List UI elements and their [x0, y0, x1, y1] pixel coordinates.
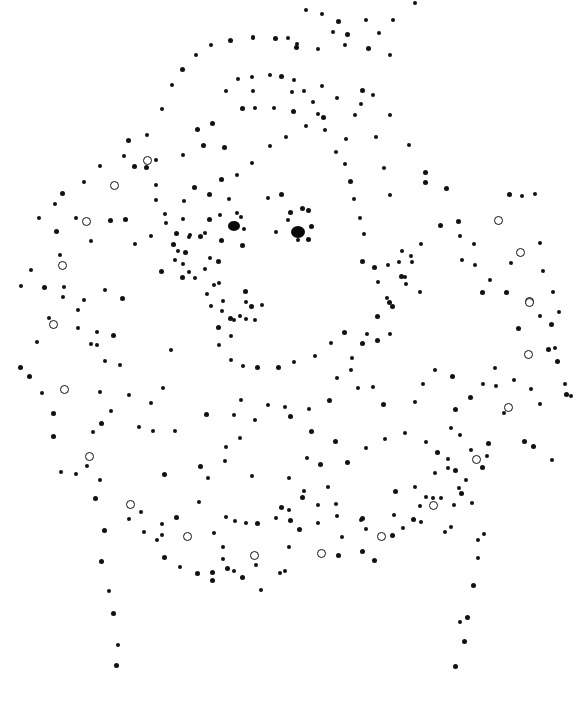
stipple-dot	[476, 556, 481, 561]
stipple-dot	[59, 470, 64, 475]
stipple-dot	[181, 262, 185, 266]
stipple-dot	[251, 89, 256, 94]
stipple-dot	[327, 398, 332, 403]
stipple-dot	[224, 445, 229, 450]
stipple-dot	[132, 164, 137, 169]
stipple-dot	[300, 206, 305, 211]
stipple-dot	[82, 298, 86, 302]
stipple-dot	[239, 398, 244, 403]
stipple-dot	[253, 106, 257, 110]
stipple-dot	[388, 53, 392, 57]
stipple-dot	[233, 519, 238, 524]
stipple-dot	[306, 208, 311, 213]
stipple-dot	[244, 317, 248, 321]
stipple-dot	[557, 310, 562, 315]
stipple-dot	[212, 283, 217, 288]
stipple-dot	[187, 270, 191, 274]
left-eye	[228, 221, 240, 231]
stipple-dot	[278, 571, 283, 576]
stipple-dot	[139, 510, 143, 514]
stipple-dot	[27, 374, 32, 379]
stipple-dot	[244, 521, 248, 525]
stipple-dot	[360, 88, 365, 93]
stipple-dot	[228, 38, 233, 43]
stipple-dot	[375, 314, 380, 319]
stipple-dot	[331, 30, 335, 34]
stipple-dot	[364, 527, 368, 531]
stipple-dot	[457, 486, 461, 490]
stipple-dot	[250, 161, 254, 165]
stipple-dot	[232, 318, 236, 322]
stipple-dot	[161, 386, 166, 391]
stipple-dot	[349, 368, 353, 372]
stipple-dot	[279, 74, 284, 79]
stipple-dot	[374, 135, 379, 140]
stipple-dot	[382, 166, 386, 170]
stipple-dot	[550, 458, 554, 462]
stipple-dot	[221, 557, 226, 562]
stipple-dot	[18, 365, 23, 370]
stipple-dot	[221, 545, 226, 550]
stipple-dot	[99, 559, 104, 564]
stipple-dot	[309, 429, 314, 434]
ruff-ring-marker	[250, 551, 259, 560]
stipple-dot	[549, 322, 554, 327]
stipple-dot	[149, 401, 154, 406]
stipple-dot	[481, 382, 485, 386]
stipple-dot	[313, 354, 317, 358]
stipple-dot	[482, 532, 487, 537]
stipple-dot	[194, 53, 199, 58]
right-eye	[291, 226, 305, 238]
stipple-dot	[154, 198, 158, 202]
stipple-dot	[459, 491, 464, 496]
stipple-dot	[178, 565, 182, 569]
stipple-dot	[458, 234, 463, 239]
stipple-dot	[507, 192, 512, 197]
stipple-dot	[340, 535, 344, 539]
stipple-dot	[259, 588, 263, 592]
stipple-dot	[126, 138, 131, 143]
stipple-dot	[488, 278, 493, 283]
stipple-dot	[181, 217, 185, 221]
stipple-dot	[216, 325, 221, 330]
stipple-dot	[98, 164, 103, 169]
stipple-dot	[210, 578, 215, 583]
stipple-dot	[238, 314, 242, 318]
stipple-dot	[62, 285, 67, 290]
stipple-dot	[362, 232, 367, 237]
stipple-dot	[266, 196, 271, 201]
stipple-dot	[253, 318, 257, 322]
stipple-dot	[187, 235, 191, 239]
stipple-dot	[118, 363, 122, 367]
stipple-dot	[209, 43, 214, 48]
stipple-dot	[122, 154, 127, 159]
stipple-dot	[51, 411, 56, 416]
stipple-dot	[144, 165, 149, 170]
stipple-dot	[372, 265, 377, 270]
stipple-dot	[151, 429, 155, 433]
stipple-dot	[206, 476, 211, 481]
stipple-dot	[238, 436, 242, 440]
stipple-dot	[365, 332, 370, 337]
stipple-dot	[227, 197, 232, 202]
stipple-dot	[220, 309, 224, 313]
stipple-dot	[407, 143, 412, 148]
stipple-dot	[334, 150, 338, 154]
stipple-dot	[470, 501, 475, 506]
stipple-dot	[453, 664, 458, 669]
stipple-dot	[468, 395, 473, 400]
stipple-dot	[240, 106, 245, 111]
stipple-dot	[76, 308, 80, 312]
stipple-dot	[58, 253, 62, 257]
stipple-dot	[453, 468, 458, 473]
stipple-dot	[249, 304, 254, 309]
stipple-dot	[89, 342, 94, 347]
stipple-dot	[253, 418, 257, 422]
stipple-dot	[208, 256, 212, 260]
stipple-dot	[509, 261, 514, 266]
stipple-dot	[302, 489, 307, 494]
stipple-dot	[174, 515, 179, 520]
stipple-dot	[343, 162, 347, 166]
stipple-dot	[318, 462, 323, 467]
stipple-dot	[449, 426, 454, 431]
